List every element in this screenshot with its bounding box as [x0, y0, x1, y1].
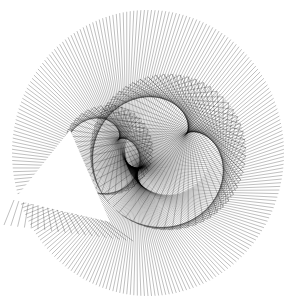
- string-art-figure: [0, 0, 289, 301]
